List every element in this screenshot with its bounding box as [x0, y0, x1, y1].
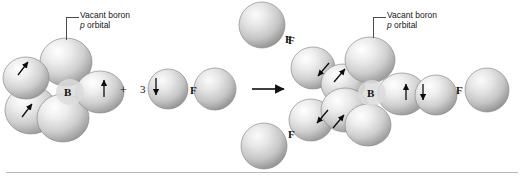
product-fluorine-right [465, 68, 509, 112]
reactant-fluorine-orbital [148, 69, 188, 109]
product-fluorine-right-label: F [456, 84, 463, 96]
callout-right-line1: Vacant boron [387, 10, 437, 20]
callout-leader-right [373, 17, 386, 38]
callout-left-line1: Vacant boron [80, 10, 130, 20]
reactant-fluorine-sphere [194, 68, 236, 110]
callout-vacant-p-orbital-left: Vacant boron p orbital [80, 10, 130, 30]
callout-leader-left [66, 17, 79, 40]
callout-left-rest: orbital [85, 20, 111, 30]
product-boron-label: B [367, 87, 374, 99]
product-fluorine-bottom [241, 123, 287, 169]
fluorine-coefficient: 3 [140, 83, 146, 95]
callout-right-line2: p orbital [387, 20, 437, 30]
orbital-reaction-diagram: Vacant boron p orbital Vacant boron p or… [0, 0, 524, 187]
product-fluorine-lower-left-label: F [288, 128, 295, 140]
product-fluorine-top [239, 2, 285, 48]
product-fluorine-upper-left-label: F [285, 33, 292, 45]
reactant-boron-label: B [64, 86, 71, 98]
callout-right-rest: orbital [392, 20, 418, 30]
plus-sign: + [120, 83, 127, 98]
callout-vacant-p-orbital-right: Vacant boron p orbital [387, 10, 437, 30]
reactant-fluorine-label: F [190, 84, 197, 96]
bottom-divider [6, 172, 518, 173]
callout-left-line2: p orbital [80, 20, 130, 30]
